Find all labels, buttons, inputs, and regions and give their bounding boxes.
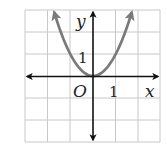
x-tick-label-1: 1 xyxy=(109,83,119,101)
origin-label: O xyxy=(73,81,87,101)
x-axis-label: x xyxy=(145,81,155,101)
y-tick-label-1: 1 xyxy=(78,49,88,67)
coordinate-plane: y x O 1 1 xyxy=(0,0,167,153)
y-axis-label: y xyxy=(75,11,86,31)
